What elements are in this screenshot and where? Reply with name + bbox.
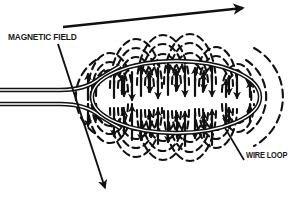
wire-loop-leader-line [225, 128, 244, 160]
diagram-canvas [0, 0, 301, 200]
magnetic-field-label: MAGNETIC FIELD [8, 31, 77, 42]
magnetic-field-diagram: MAGNETIC FIELD WIRE LOOP [0, 0, 301, 200]
wire-leads [0, 66, 120, 128]
field-direction-arrow [63, 8, 243, 27]
wire-loop-label: WIRE LOOP [246, 150, 287, 160]
